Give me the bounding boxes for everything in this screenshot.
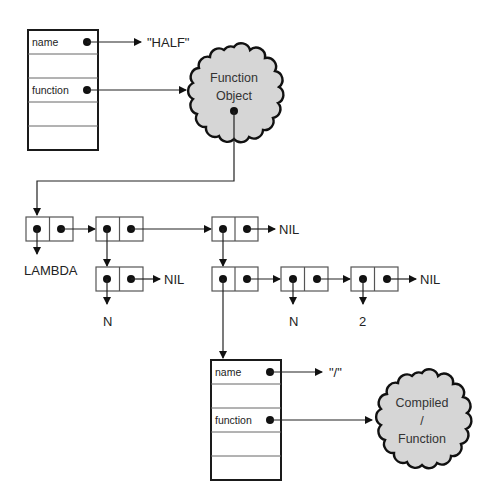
arg-n-label: N [289,314,298,329]
nil-label-3: NIL [420,272,440,287]
arg-2-label: 2 [359,314,366,329]
slot-name-label-div: name [215,366,241,378]
cloud-text-line2: Object [216,89,253,103]
cloud-text-line1: Function [210,71,258,85]
slot-function-label: function [32,84,69,96]
compiled-text-line3: Function [398,432,446,446]
lambda-label: LAMBDA [24,263,78,278]
slot-function-label-div: function [215,414,252,426]
compiled-text-line2: / [420,414,424,428]
slot-name-label: name [32,36,58,48]
nil-label-1: NIL [279,222,299,237]
nil-label-2: NIL [164,272,184,287]
param-n-label: N [103,314,112,329]
name-value-div: "/" [329,365,342,380]
name-value-half: "HALF" [147,35,190,50]
function-object-cloud: Function Object [188,43,283,142]
compiled-text-line1: Compiled [396,396,449,410]
compiled-function-cloud: Compiled / Function [376,369,471,468]
lisp-memory-diagram: name function "HALF" Function Object LAM… [0,0,493,502]
